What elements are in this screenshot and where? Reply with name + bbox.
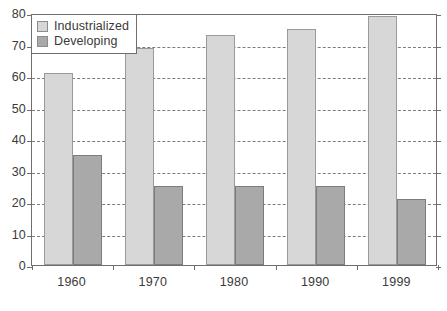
y-tick-right-80 (436, 15, 441, 16)
x-tick-origin (32, 265, 33, 270)
x-tick-1970 (194, 265, 195, 270)
bar-industrialized-1990 (287, 29, 316, 265)
bar-chart: 01020304050607080 19601970198019901999 I… (0, 0, 447, 311)
bar-industrialized-1980 (206, 35, 235, 265)
y-tick-40 (27, 141, 32, 142)
x-axis-label-1970: 1970 (118, 276, 188, 289)
y-tick-60 (27, 78, 32, 79)
y-axis-label-80: 80 (0, 8, 26, 21)
bar-developing-1999 (397, 199, 426, 265)
y-axis-label-50: 50 (0, 103, 26, 116)
y-axis-label-0: 0 (0, 260, 26, 273)
y-axis-label-30: 30 (0, 166, 26, 179)
x-axis-label-1999: 1999 (361, 276, 431, 289)
bar-developing-1960 (73, 155, 102, 265)
y-tick-10 (27, 236, 32, 237)
y-tick-right-50 (436, 110, 441, 111)
legend-item-industrialized: Industrialized (37, 19, 129, 34)
bar-developing-1980 (235, 186, 264, 265)
y-tick-right-60 (436, 78, 441, 79)
x-tick-1980 (276, 265, 277, 270)
legend-label-developing: Developing (54, 35, 118, 48)
x-axis-label-1960: 1960 (37, 276, 107, 289)
bar-developing-1990 (316, 186, 345, 265)
x-tick-1999 (438, 265, 439, 270)
legend-swatch-industrialized (37, 21, 48, 32)
y-axis-label-10: 10 (0, 229, 26, 242)
y-tick-right-10 (436, 236, 441, 237)
y-tick-right-70 (436, 47, 441, 48)
bar-industrialized-1970 (125, 48, 154, 265)
y-tick-30 (27, 173, 32, 174)
legend-label-industrialized: Industrialized (54, 20, 129, 33)
y-axis-label-40: 40 (0, 134, 26, 147)
bar-developing-1970 (154, 186, 183, 265)
x-axis-label-1980: 1980 (199, 276, 269, 289)
y-axis-label-20: 20 (0, 197, 26, 210)
y-tick-right-40 (436, 141, 441, 142)
bar-industrialized-1960 (44, 73, 73, 265)
legend-swatch-developing (37, 36, 48, 47)
y-tick-50 (27, 110, 32, 111)
y-axis-label-60: 60 (0, 71, 26, 84)
bar-industrialized-1999 (368, 16, 397, 265)
x-tick-1960 (113, 265, 114, 270)
legend-item-developing: Developing (37, 34, 129, 49)
chart-legend: IndustrializedDeveloping (31, 14, 137, 54)
y-tick-right-20 (436, 204, 441, 205)
x-tick-1990 (357, 265, 358, 270)
y-tick-20 (27, 204, 32, 205)
x-axis-label-1990: 1990 (280, 276, 350, 289)
y-axis-label-70: 70 (0, 40, 26, 53)
y-tick-right-30 (436, 173, 441, 174)
